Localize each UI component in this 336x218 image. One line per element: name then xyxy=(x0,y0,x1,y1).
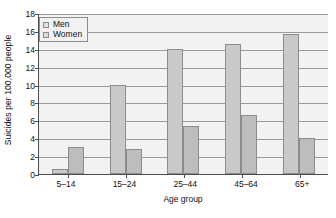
bar-chart: Suicides per 100,000 people 024681012141… xyxy=(0,0,336,218)
bar-men-4[interactable] xyxy=(283,34,299,174)
x-axis-tick-mark xyxy=(184,174,185,178)
bar-group xyxy=(225,14,257,174)
x-axis-tick-labels: 5–1415–2425–4445–6465+ xyxy=(38,179,328,193)
y-axis-tick-label: 18 xyxy=(26,9,35,19)
x-axis-tick-label: 5–14 xyxy=(57,179,76,189)
chart-legend: MenWomen xyxy=(39,17,88,42)
y-axis-tick-label: 16 xyxy=(26,27,35,37)
y-axis-tick-label: 12 xyxy=(26,63,35,73)
x-axis-tick-mark xyxy=(242,174,243,178)
bar-women-4[interactable] xyxy=(299,138,315,174)
x-axis-tick-mark xyxy=(300,174,301,178)
bar-group xyxy=(110,14,142,174)
x-axis-title: Age group xyxy=(38,194,328,204)
x-axis-tick-mark xyxy=(68,174,69,178)
y-axis-title-text: Suicides per 100,000 people xyxy=(3,35,13,145)
bar-women-2[interactable] xyxy=(183,126,199,174)
bar-men-2[interactable] xyxy=(167,49,183,174)
legend-swatch-icon xyxy=(43,32,49,38)
y-axis-tick-label: 14 xyxy=(26,45,35,55)
bar-women-3[interactable] xyxy=(241,115,257,174)
bar-men-3[interactable] xyxy=(225,44,241,174)
bar-men-0[interactable] xyxy=(52,169,68,174)
y-axis-tick-label: 10 xyxy=(26,81,35,91)
legend-label: Men xyxy=(53,20,70,29)
x-axis-tick-label: 25–44 xyxy=(173,179,197,189)
bar-group xyxy=(283,14,315,174)
legend-label: Women xyxy=(53,30,82,39)
legend-entry-men[interactable]: Men xyxy=(43,20,82,29)
x-axis-tick-label: 65+ xyxy=(295,179,309,189)
x-axis-tick-label: 45–64 xyxy=(234,179,258,189)
bar-women-1[interactable] xyxy=(126,149,142,174)
y-axis-tick-labels: 024681012141618 xyxy=(14,0,38,180)
bar-men-1[interactable] xyxy=(110,85,126,174)
bar-group xyxy=(167,14,199,174)
bar-women-0[interactable] xyxy=(68,147,84,174)
legend-entry-women[interactable]: Women xyxy=(43,30,82,39)
x-axis-tick-label: 15–24 xyxy=(113,179,137,189)
x-axis-tick-mark xyxy=(126,174,127,178)
legend-swatch-icon xyxy=(43,22,49,28)
y-axis-tick-mark xyxy=(35,175,39,176)
